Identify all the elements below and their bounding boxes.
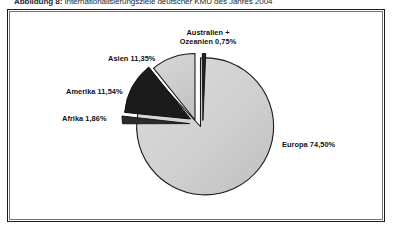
pie-label-australien-line2: Ozeanien 0,75%	[180, 37, 237, 46]
pie-label-amerika: Amerika 11,54%	[66, 87, 123, 96]
pie-label-australien-ozeanien: Australien + Ozeanien 0,75%	[166, 28, 250, 47]
pie-label-asien: Asien 11,35%	[108, 54, 155, 63]
pie-label-europa: Europa 74,50%	[282, 140, 335, 149]
pie-chart-plot-area: Australien + Ozeanien 0,75% Asien 11,35%…	[0, 0, 393, 228]
pie-label-afrika: Afrika 1,86%	[62, 114, 107, 123]
pie-label-australien-line1: Australien +	[186, 28, 229, 37]
